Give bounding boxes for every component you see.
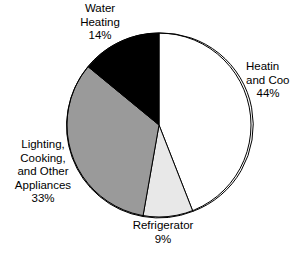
pie-label-lighting-line4: Appliances (2, 179, 84, 193)
pie-label-heating-and-cooling-line1: Heatin (246, 60, 300, 74)
pie-label-lighting-line1: Lighting, (2, 138, 84, 152)
pie-label-lighting-percent: 33% (2, 192, 84, 206)
pie-label-water-heating-percent: 14% (52, 29, 148, 43)
pie-label-lighting-line2: Cooking, (2, 152, 84, 166)
pie-label-refrigerator-line1: Refrigerator (108, 219, 218, 233)
pie-label-water-heating-line1: Water (52, 2, 148, 16)
pie-label-heating-and-cooling-line2: and Coo (246, 74, 300, 88)
pie-chart-figure: Water Heating 14% Heatin and Coo 44% Lig… (0, 0, 300, 260)
pie-label-lighting-cooking-appliances: Lighting, Cooking, and Other Appliances … (2, 138, 84, 206)
pie-label-water-heating-line2: Heating (52, 16, 148, 30)
pie-label-refrigerator: Refrigerator 9% (108, 219, 218, 246)
pie-label-lighting-line3: and Other (2, 165, 84, 179)
pie-label-refrigerator-percent: 9% (108, 233, 218, 247)
pie-label-heating-and-cooling-percent: 44% (246, 87, 290, 101)
pie-label-water-heating: Water Heating 14% (52, 2, 148, 43)
pie-label-heating-and-cooling: Heatin and Coo 44% (246, 60, 300, 101)
